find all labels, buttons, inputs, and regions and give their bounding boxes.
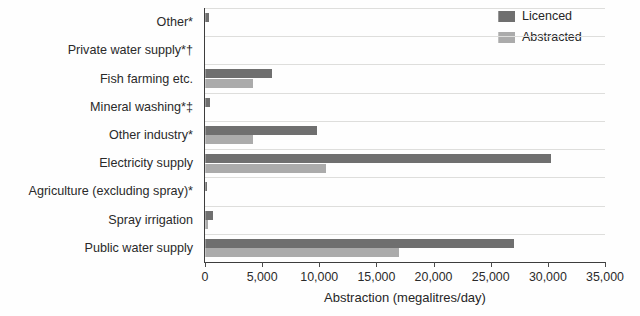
bar-licenced: [205, 13, 209, 22]
bar-licenced: [205, 69, 272, 78]
bar-licenced: [205, 239, 514, 248]
category-axis-labels: Other*Private water supply*†Fish farming…: [0, 8, 199, 262]
x-tick-label: 25,000: [472, 270, 510, 284]
x-tick-label: 15,000: [357, 270, 395, 284]
x-tick-mark: [205, 262, 206, 267]
bar-abstracted: [205, 164, 326, 173]
bar-licenced: [205, 126, 317, 135]
gridline: [205, 262, 605, 263]
chart-row: [205, 64, 605, 92]
x-tick-mark: [605, 262, 606, 267]
chart-row: [205, 149, 605, 177]
chart-row: [205, 93, 605, 121]
category-label: Public water supply: [0, 241, 193, 255]
chart-row: [205, 36, 605, 64]
chart-row: [205, 8, 605, 36]
category-label: Mineral washing*‡: [0, 100, 193, 114]
bar-abstracted: [205, 220, 208, 229]
x-tick-mark: [434, 262, 435, 267]
x-tick-mark: [262, 262, 263, 267]
x-tick-mark: [376, 262, 377, 267]
category-label: Other industry*: [0, 128, 193, 142]
plot-area: 05,00010,00015,00020,00025,00030,00035,0…: [205, 8, 605, 262]
category-label: Other*: [0, 15, 193, 29]
x-tick-label: 35,000: [586, 270, 624, 284]
category-label: Private water supply*†: [0, 43, 193, 57]
bar-licenced: [205, 182, 207, 191]
category-label: Agriculture (excluding spray)*: [0, 184, 193, 198]
x-tick-label: 20,000: [415, 270, 453, 284]
bar-licenced: [205, 98, 210, 107]
bar-licenced: [205, 211, 213, 220]
bar-licenced: [205, 154, 551, 163]
x-tick-mark: [319, 262, 320, 267]
category-label: Spray irrigation: [0, 213, 193, 227]
x-tick-label: 5,000: [247, 270, 278, 284]
abstraction-bar-chart: Licenced Abstracted Other*Private water …: [0, 0, 640, 316]
x-tick-mark: [491, 262, 492, 267]
x-tick-label: 30,000: [529, 270, 567, 284]
x-axis-title: Abstraction (megalitres/day): [205, 290, 605, 305]
x-tick-label: 0: [202, 270, 209, 284]
bar-abstracted: [205, 135, 253, 144]
chart-row: [205, 234, 605, 262]
bar-abstracted: [205, 248, 399, 257]
category-label: Electricity supply: [0, 156, 193, 170]
x-tick-label: 10,000: [300, 270, 338, 284]
category-label: Fish farming etc.: [0, 72, 193, 86]
chart-row: [205, 121, 605, 149]
chart-row: [205, 177, 605, 205]
chart-row: [205, 206, 605, 234]
x-tick-mark: [548, 262, 549, 267]
bar-abstracted: [205, 79, 253, 88]
